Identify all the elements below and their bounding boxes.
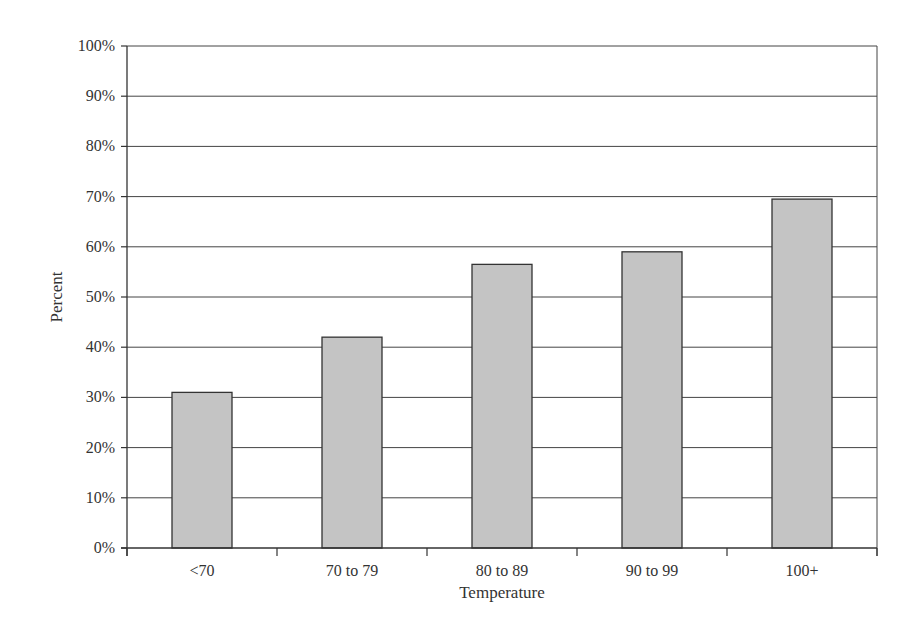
y-axis-ticks: 0%10%20%30%40%50%60%70%80%90%100% xyxy=(78,37,127,556)
y-tick-label: 60% xyxy=(86,238,115,255)
y-tick-label: 40% xyxy=(86,338,115,355)
bar xyxy=(622,252,682,548)
y-tick-label: 30% xyxy=(86,388,115,405)
bar-chart: 0%10%20%30%40%50%60%70%80%90%100% <7070 … xyxy=(0,0,920,633)
bar xyxy=(772,199,832,548)
x-tick-label: 90 to 99 xyxy=(626,562,678,579)
x-axis-ticks: <7070 to 7980 to 8990 to 99100+ xyxy=(127,548,877,579)
x-tick-label: <70 xyxy=(189,562,214,579)
y-tick-label: 0% xyxy=(94,539,115,556)
x-tick-label: 100+ xyxy=(785,562,818,579)
y-axis-title: Percent xyxy=(47,271,66,322)
bar xyxy=(472,264,532,548)
y-tick-label: 90% xyxy=(86,87,115,104)
y-tick-label: 80% xyxy=(86,137,115,154)
y-tick-label: 20% xyxy=(86,439,115,456)
bar xyxy=(322,337,382,548)
y-tick-label: 10% xyxy=(86,489,115,506)
y-tick-label: 50% xyxy=(86,288,115,305)
x-tick-label: 80 to 89 xyxy=(476,562,528,579)
bar xyxy=(172,392,232,548)
x-tick-label: 70 to 79 xyxy=(326,562,378,579)
x-axis-title: Temperature xyxy=(459,583,545,602)
y-tick-label: 70% xyxy=(86,188,115,205)
y-tick-label: 100% xyxy=(78,37,115,54)
bars xyxy=(172,199,832,548)
